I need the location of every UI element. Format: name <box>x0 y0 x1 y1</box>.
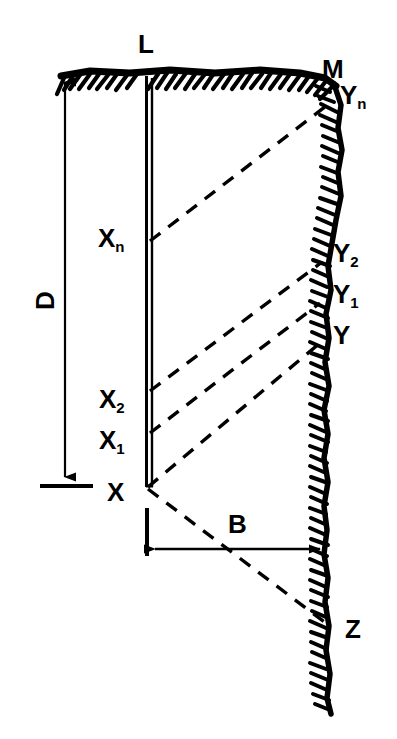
label-width-B-text: B <box>228 509 247 539</box>
figure-root: L M Yn D Xn Y2 Y1 Y X2 X1 X B Z <box>0 0 397 739</box>
label-Y-text: Y <box>333 320 350 350</box>
label-soil-Y1: Y1 <box>333 281 359 310</box>
label-ground-corner-M: M <box>322 56 344 82</box>
label-Y1-base: Y <box>333 279 350 309</box>
wedge-line-x1-y1 <box>150 303 320 433</box>
label-width-B: B <box>228 511 247 537</box>
diagram-canvas <box>0 0 397 739</box>
label-Y2-subscript: 2 <box>350 254 358 269</box>
label-wedge-top-Yn: Yn <box>340 82 367 111</box>
label-depth-D-text: D <box>30 291 60 310</box>
label-Xn-subscript: n <box>115 239 124 254</box>
label-pile-tip-X-text: X <box>107 477 124 507</box>
label-X1-base: X <box>99 425 116 455</box>
wedge-line-x2-y2 <box>150 262 322 391</box>
label-pile-top-L-text: L <box>138 29 154 59</box>
wedge-line-xn-yn <box>150 103 330 241</box>
label-X2-subscript: 2 <box>116 400 124 415</box>
pile <box>146 76 153 487</box>
label-depth-D: D <box>32 291 58 310</box>
label-pile-top-L: L <box>138 31 154 57</box>
label-lower-wedge-Z: Z <box>345 616 361 642</box>
label-Xn-base: X <box>98 223 115 253</box>
label-Y1-subscript: 1 <box>350 295 358 310</box>
label-X1-subscript: 1 <box>116 441 124 456</box>
label-soil-Y: Y <box>333 322 350 348</box>
label-Yn-base: Y <box>340 80 357 110</box>
label-Yn-subscript: n <box>357 96 366 111</box>
label-pile-depth-Xn: Xn <box>98 225 125 254</box>
label-lower-wedge-Z-text: Z <box>345 614 361 644</box>
label-Y2-base: Y <box>333 238 350 268</box>
label-soil-Y2: Y2 <box>333 240 359 269</box>
label-pile-depth-X2: X2 <box>99 386 125 415</box>
depth-dimension-line <box>40 82 93 486</box>
label-pile-tip-X: X <box>107 479 124 505</box>
label-pile-depth-X1: X1 <box>99 427 125 456</box>
label-X2-base: X <box>99 384 116 414</box>
ground-hatching <box>57 73 332 99</box>
